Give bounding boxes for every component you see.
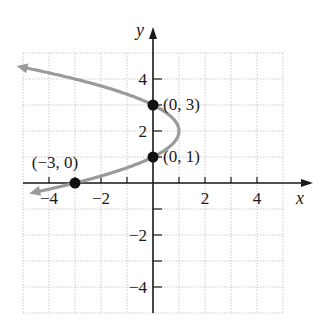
x-axis-label: x <box>295 188 304 208</box>
x-axis-arrow-icon <box>301 179 313 187</box>
x-tick-label: −2 <box>92 189 110 208</box>
data-point <box>70 178 81 189</box>
y-tick-label: 2 <box>139 122 148 141</box>
curve-arrow-icon <box>17 63 29 73</box>
data-point <box>148 152 159 163</box>
point-label: (0, 3) <box>163 95 200 114</box>
y-axis-label: y <box>134 20 144 40</box>
curve-arrows <box>17 63 42 195</box>
y-tick-label: −2 <box>129 226 147 245</box>
y-tick-label: 4 <box>139 70 148 89</box>
parabola-chart: −4−22442−2−4 (0, 3)(0, 1)(−3, 0) x y <box>0 0 320 327</box>
curve-arrow-icon <box>29 186 41 196</box>
point-label: (0, 1) <box>163 147 200 166</box>
x-tick-label: 2 <box>201 189 210 208</box>
y-axis-arrow-icon <box>149 27 157 39</box>
data-point <box>148 100 159 111</box>
x-tick-label: 4 <box>253 189 262 208</box>
y-tick-label: −4 <box>129 278 148 297</box>
point-label: (−3, 0) <box>32 153 78 172</box>
